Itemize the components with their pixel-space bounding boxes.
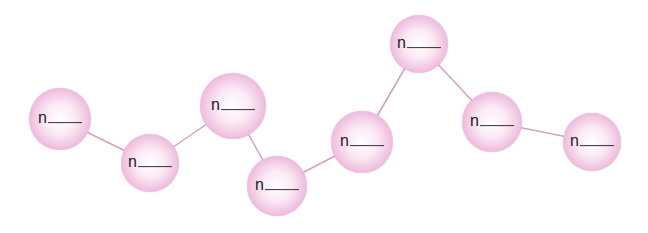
bead-node: n [331, 111, 393, 173]
node-label: n [247, 176, 307, 194]
node-label: n [200, 96, 266, 114]
node-letter: n [211, 96, 220, 113]
bead-node: n [121, 134, 179, 192]
node-letter: n [397, 34, 406, 51]
node-letter: n [38, 109, 47, 126]
node-letter: n [570, 132, 579, 149]
node-letter: n [255, 176, 264, 193]
node-label: n [563, 132, 621, 150]
bead-node: n [390, 15, 448, 73]
answer-blank[interactable] [48, 121, 82, 123]
bead-node: n [29, 88, 91, 150]
node-letter: n [128, 153, 137, 170]
answer-blank[interactable] [350, 144, 384, 146]
bead-node: n [462, 92, 522, 152]
bead-node: n [563, 113, 621, 171]
node-label: n [331, 132, 393, 150]
node-label: n [390, 34, 448, 52]
answer-blank[interactable] [480, 124, 514, 126]
bead-node: n [247, 156, 307, 216]
connector-lines [0, 0, 648, 233]
answer-blank[interactable] [138, 165, 172, 167]
answer-blank[interactable] [580, 144, 614, 146]
bead-node: n [200, 73, 266, 139]
node-label: n [29, 109, 91, 127]
node-letter: n [340, 132, 349, 149]
answer-blank[interactable] [221, 108, 255, 110]
answer-blank[interactable] [265, 188, 299, 190]
node-letter: n [470, 112, 479, 129]
node-label: n [462, 112, 522, 130]
answer-blank[interactable] [407, 46, 441, 48]
node-label: n [121, 153, 179, 171]
